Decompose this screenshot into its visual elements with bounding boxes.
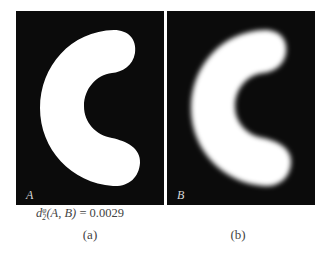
formula-value: 0.0029 — [90, 206, 124, 220]
subcaption-a: (a) — [75, 228, 105, 241]
c-shape-path-a — [40, 30, 140, 186]
image-panel-a: A — [16, 11, 164, 205]
formula-args: (A, B) — [46, 206, 76, 220]
panel-label-b: B — [177, 189, 184, 201]
formula-equals: = — [79, 206, 86, 220]
image-panel-b: B — [167, 11, 315, 205]
distance-formula: dφ2(A, B) = 0.0029 — [36, 207, 144, 221]
c-shape-path-b — [191, 30, 291, 186]
c-shape-blurred — [167, 11, 315, 205]
panel-label-a: A — [26, 189, 33, 201]
subcaption-b: (b) — [223, 228, 253, 241]
c-shape-sharp — [16, 11, 164, 205]
